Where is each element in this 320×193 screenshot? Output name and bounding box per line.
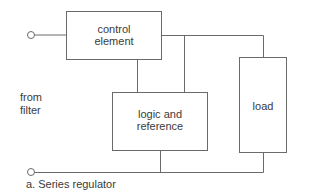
from-filter-label: from filter: [20, 91, 42, 117]
input-terminal-bottom: [28, 169, 35, 176]
load-label: load: [239, 100, 287, 112]
logic-reference-label: logic and reference: [112, 108, 208, 132]
figure-caption: a. Series regulator: [26, 178, 116, 190]
input-terminal-top: [28, 32, 35, 39]
control-element-label: control element: [66, 23, 162, 47]
